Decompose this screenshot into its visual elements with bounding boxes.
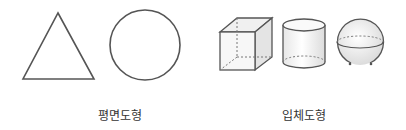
solid-figures-label: 입체도형 — [244, 106, 364, 123]
plane-figures-label: 평면도형 — [60, 106, 180, 123]
cylinder-shape — [283, 19, 325, 68]
circle-shape — [110, 10, 180, 80]
cube-shape — [220, 18, 272, 70]
sphere-shape — [337, 19, 383, 65]
triangle-shape — [23, 13, 94, 79]
